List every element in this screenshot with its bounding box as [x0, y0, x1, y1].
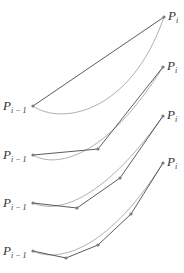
label-p-i-minus-1-subscript: i − 1 — [11, 203, 27, 212]
label-p-i-minus-1-subscript: i − 1 — [11, 251, 27, 260]
subdivision-point — [96, 147, 99, 150]
reference-curve — [33, 116, 163, 206]
subdivision-point — [96, 243, 99, 246]
end-point — [161, 161, 164, 164]
panel-4: Pi − 1Pi — [2, 154, 177, 260]
subdivision-point — [118, 176, 121, 179]
end-point — [162, 15, 165, 18]
label-p-i: P — [166, 58, 175, 73]
start-point — [31, 201, 34, 204]
label-p-i: P — [166, 154, 175, 169]
label-p-i-minus-1: P — [2, 147, 11, 162]
label-p-i-subscript: i — [176, 16, 178, 25]
subdivision-diagram: Pi − 1PiPi − 1PiPi − 1PiPi − 1Pi — [0, 0, 184, 273]
label-p-i: P — [167, 8, 176, 23]
label-p-i-minus-1-subscript: i − 1 — [11, 155, 27, 164]
label-p-i-minus-1-subscript: i − 1 — [11, 106, 27, 115]
label-p-i: P — [166, 107, 175, 122]
reference-curve — [33, 163, 163, 255]
start-point — [31, 153, 34, 156]
label-p-i-minus-1: P — [2, 195, 11, 210]
subdivision-point — [75, 206, 78, 209]
panel-3: Pi − 1Pi — [2, 107, 177, 212]
label-p-i-subscript: i — [175, 115, 177, 124]
end-point — [161, 114, 164, 117]
subdivision-point — [64, 256, 67, 259]
start-point — [31, 249, 34, 252]
label-p-i-subscript: i — [175, 66, 177, 75]
approximating-polyline — [33, 17, 164, 106]
label-p-i-minus-1: P — [2, 98, 11, 113]
panel-2: Pi − 1Pi — [2, 58, 177, 164]
subdivision-point — [129, 212, 132, 215]
start-point — [31, 104, 34, 107]
label-p-i-subscript: i — [175, 162, 177, 171]
reference-curve — [33, 17, 164, 114]
panel-1: Pi − 1Pi — [2, 8, 178, 115]
end-point — [161, 65, 164, 68]
label-p-i-minus-1: P — [2, 243, 11, 258]
